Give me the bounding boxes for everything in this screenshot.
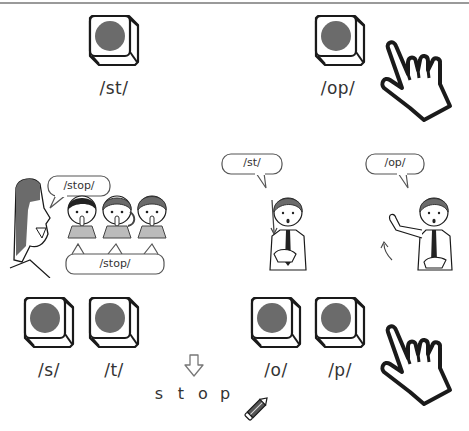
gesture-left-bubble-text: /st/ (222, 156, 282, 169)
push-button-icon (87, 296, 141, 350)
gesture-right-bubble-text: /op/ (366, 156, 424, 169)
label-p: /p/ (310, 360, 370, 380)
sound-button-o[interactable] (249, 296, 303, 350)
push-button-icon (249, 296, 303, 350)
push-button-icon (313, 296, 367, 350)
student-1 (68, 196, 96, 238)
label-t: /t/ (84, 360, 144, 380)
sound-button-s[interactable] (22, 296, 76, 350)
letter-t: t (170, 384, 192, 403)
pencil-icon (242, 397, 268, 423)
pointing-hand-icon (378, 38, 462, 124)
letter-o: o (192, 384, 214, 403)
down-arrow-icon (183, 354, 205, 378)
student-2 (103, 196, 134, 238)
label-op: /op/ (308, 78, 368, 98)
students-bubble-text: /stop/ (66, 257, 164, 270)
sound-button-p[interactable] (313, 296, 367, 350)
sound-button-t[interactable] (87, 296, 141, 350)
letter-s: s (148, 384, 170, 403)
teacher-bubble-text: /stop/ (48, 179, 110, 192)
student-3 (138, 196, 166, 238)
push-button-icon (87, 14, 141, 68)
teacher-figure (10, 179, 50, 278)
letter-p: p (214, 384, 236, 403)
sound-button-op[interactable] (313, 14, 367, 68)
pointing-hand-icon (378, 322, 462, 408)
label-s: /s/ (19, 360, 79, 380)
push-button-icon (22, 296, 76, 350)
word-stop: stop (148, 384, 236, 403)
label-o: /o/ (246, 360, 306, 380)
top-rule (0, 2, 469, 4)
label-st: /st/ (84, 78, 144, 98)
sound-button-st[interactable] (87, 14, 141, 68)
push-button-icon (313, 14, 367, 68)
